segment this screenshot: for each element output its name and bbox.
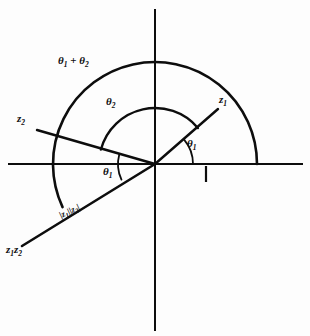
label-theta1-left: θ1 xyxy=(103,166,112,177)
label-z1: z1 xyxy=(219,94,227,105)
label-theta1-right: θ1 xyxy=(187,138,196,149)
label-theta2: θ2 xyxy=(106,96,115,107)
complex-multiplication-diagram: θ1 + θ2 θ2 θ1 θ1 z1 z2 z1z2 |z1||z2| xyxy=(0,0,310,336)
label-z2: z2 xyxy=(17,113,25,124)
angle-arc-theta1-left xyxy=(118,154,121,179)
inner-arc xyxy=(101,108,198,150)
diagram-canvas xyxy=(0,0,310,336)
label-z1z2: z1z2 xyxy=(6,244,22,255)
ray-z1z2 xyxy=(22,164,155,246)
label-theta1-plus-theta2: θ1 + θ2 xyxy=(58,55,89,66)
